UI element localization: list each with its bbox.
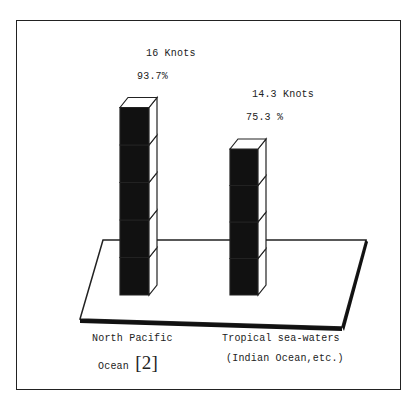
chart-graphic bbox=[0, 0, 418, 407]
category1-ocean: Ocean bbox=[98, 361, 129, 372]
category1-line2: Ocean [2] bbox=[98, 352, 158, 374]
bar-tropical bbox=[230, 139, 266, 295]
category1-line1: North Pacific bbox=[92, 333, 173, 344]
bar2-speed-label: 14.3 Knots bbox=[252, 89, 314, 100]
bar1-percent-label: 93.7% bbox=[137, 71, 168, 82]
bar1-speed-label: 16 Knots bbox=[146, 48, 196, 59]
reference-citation: [2] bbox=[135, 352, 158, 373]
bar-north-pacific bbox=[120, 98, 157, 296]
category2-line2: (Indian Ocean,etc.) bbox=[226, 353, 344, 364]
bar2-percent-label: 75.3 % bbox=[246, 112, 283, 123]
category2-line1: Tropical sea-waters bbox=[222, 333, 340, 344]
